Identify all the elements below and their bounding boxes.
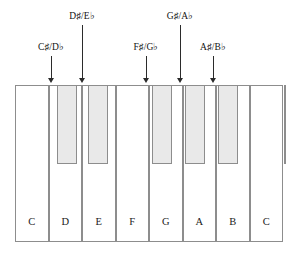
white-key-label: D — [50, 216, 82, 227]
white-key-label: C — [251, 216, 283, 227]
accidental-label-g-sharp-a-flat: G♯/A♭ — [167, 10, 194, 21]
white-key-label: G — [150, 216, 182, 227]
leader-line-a-sharp-b-flat — [213, 56, 214, 79]
black-key-D-sharp-E-flat[interactable] — [88, 85, 108, 164]
arrow-down-icon-d-sharp-e-flat — [79, 78, 85, 83]
accidental-label-f-sharp-g-flat: F♯/G♭ — [133, 41, 158, 52]
leader-line-d-sharp-e-flat — [82, 25, 83, 79]
black-key-C-sharp-D-flat-upper[interactable] — [284, 85, 286, 164]
piano-keyboard[interactable]: CDEFGABC — [16, 85, 284, 242]
leader-line-c-sharp-d-flat — [51, 56, 52, 79]
white-key-label: E — [83, 216, 115, 227]
black-key-F-sharp-G-flat[interactable] — [152, 85, 172, 164]
white-key-label: B — [217, 216, 249, 227]
diagram-canvas: C♯/D♭D♯/E♭F♯/G♭G♯/A♭A♯/B♭ CDEFGABC — [0, 0, 300, 259]
arrow-down-icon-c-sharp-d-flat — [48, 78, 54, 83]
white-key-c-7[interactable]: C — [250, 85, 284, 242]
black-key-A-sharp-B-flat[interactable] — [218, 85, 238, 164]
arrow-down-icon-a-sharp-b-flat — [210, 78, 216, 83]
black-key-G-sharp-A-flat[interactable] — [185, 85, 205, 164]
leader-line-g-sharp-a-flat — [180, 25, 181, 79]
white-key-label: C — [16, 216, 48, 227]
accidental-label-c-sharp-d-flat: C♯/D♭ — [38, 41, 64, 52]
black-key-C-sharp-D-flat[interactable] — [57, 85, 77, 164]
white-key-label: F — [117, 216, 149, 227]
accidental-label-a-sharp-b-flat: A♯/B♭ — [200, 41, 226, 52]
leader-line-f-sharp-g-flat — [146, 56, 147, 79]
white-key-f-3[interactable]: F — [116, 85, 150, 242]
white-key-c-0[interactable]: C — [15, 85, 49, 242]
white-key-label: A — [184, 216, 216, 227]
accidental-label-d-sharp-e-flat: D♯/E♭ — [69, 10, 95, 21]
arrow-down-icon-g-sharp-a-flat — [177, 78, 183, 83]
arrow-down-icon-f-sharp-g-flat — [143, 78, 149, 83]
